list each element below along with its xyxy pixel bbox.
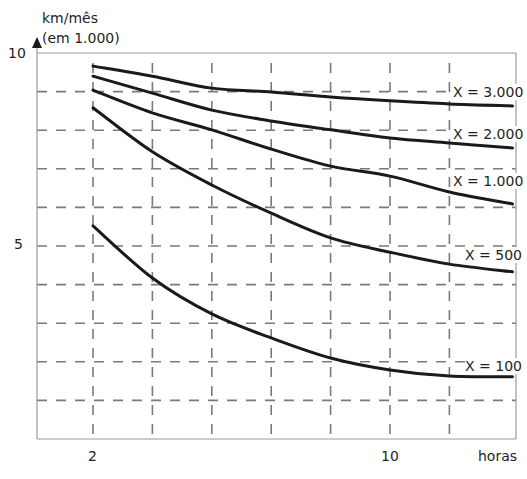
curve-500: [93, 108, 513, 272]
chart-canvas: [0, 0, 527, 479]
curve-label-x2000: X = 2.000: [453, 126, 523, 142]
y-axis-arrow-icon: [32, 37, 42, 48]
x-tick-10: 10: [381, 448, 399, 464]
y-axis-label-line2: (em 1.000): [42, 30, 120, 46]
y-axis-label-line1: km/mês: [42, 10, 98, 26]
x-tick-2: 2: [88, 448, 97, 464]
y-tick-5: 5: [14, 236, 23, 252]
curve-label-x1000: X = 1.000: [453, 173, 523, 189]
curve-label-x500: X = 500: [465, 247, 522, 263]
curve-label-x3000: X = 3.000: [453, 84, 523, 100]
x-axis-label: horas: [478, 448, 517, 464]
curve-label-x100: X = 100: [465, 358, 522, 374]
y-tick-10: 10: [8, 45, 26, 61]
